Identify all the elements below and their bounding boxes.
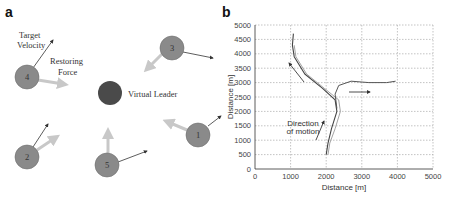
y-axis-label: Distance [m] (226, 75, 235, 119)
x-tick-label: 4000 (389, 172, 406, 181)
trajectory-line (335, 81, 396, 108)
agent-node-4: 4 (15, 65, 39, 89)
force-arrow-3 (148, 54, 162, 68)
trajectory-line (292, 34, 337, 155)
trajectory-line (294, 45, 340, 154)
agent-id-label: 3 (170, 43, 174, 53)
y-tick-label: 5000 (234, 21, 251, 30)
direction-of-motion-label-line2: of motion (287, 127, 320, 136)
panel-b-label: b (222, 4, 231, 20)
y-tick-label: 2500 (234, 93, 251, 102)
trajectory-chart: 0100020003000400050000500100015002000250… (226, 21, 441, 193)
velocity-arrow-5 (118, 151, 147, 162)
panel-a: a Target Velocity Restoring Force Virtua… (5, 4, 221, 177)
y-tick-label: 2000 (234, 107, 251, 116)
x-tick-label: 5000 (425, 172, 442, 181)
y-tick-label: 0 (247, 165, 251, 174)
force-arrow-1 (168, 122, 187, 130)
agent-node-3: 3 (160, 36, 184, 60)
virtual-leader-node (98, 81, 122, 105)
panel-b: b 01000200030004000500005001000150020002… (222, 4, 441, 192)
x-tick-label: 1000 (282, 172, 299, 181)
agent-id-label: 1 (196, 130, 200, 140)
velocity-arrow-1 (208, 116, 221, 126)
y-tick-label: 1500 (234, 121, 251, 130)
velocity-arrow-3 (183, 52, 213, 58)
agent-node-1: 1 (186, 123, 210, 147)
chart-grid (255, 25, 433, 169)
agent-id-label: 2 (25, 152, 29, 162)
restoring-force-label-line2: Force (58, 67, 78, 77)
y-tick-label: 3500 (234, 64, 251, 73)
panel-a-label: a (5, 4, 13, 20)
agent-id-label: 5 (105, 160, 109, 170)
y-tick-label: 500 (238, 150, 251, 159)
figure: a Target Velocity Restoring Force Virtua… (0, 0, 456, 200)
agent-node-2: 2 (15, 145, 39, 169)
target-velocity-label-line1: Target (19, 30, 41, 40)
y-tick-label: 4000 (234, 49, 251, 58)
virtual-leader-label: Virtual Leader (128, 89, 177, 99)
y-tick-label: 3000 (234, 78, 251, 87)
agent-node-5: 5 (95, 153, 119, 177)
agent-nodes: 12345 (15, 36, 210, 177)
restoring-force-label-line1: Restoring (50, 56, 84, 66)
force-arrow-2 (37, 138, 55, 150)
x-tick-label: 3000 (353, 172, 370, 181)
x-tick-label: 0 (253, 172, 257, 181)
target-velocity-label-line2: Velocity (17, 40, 46, 50)
y-tick-label: 1000 (234, 136, 251, 145)
y-tick-label: 4500 (234, 35, 251, 44)
x-tick-label: 2000 (318, 172, 335, 181)
force-arrow-4 (38, 80, 63, 84)
x-axis-label: Distance [m] (322, 183, 366, 192)
